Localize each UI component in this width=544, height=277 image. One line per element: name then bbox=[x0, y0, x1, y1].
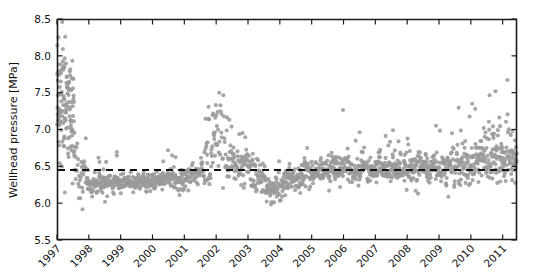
x-tick-label: 2008 bbox=[386, 242, 413, 269]
tick-labels-layer: 5.56.06.57.07.58.08.51997199819992000200… bbox=[34, 13, 508, 270]
x-tick-label: 2005 bbox=[290, 242, 317, 269]
y-tick-label: 8.0 bbox=[34, 50, 51, 62]
data-points-layer bbox=[55, 20, 519, 211]
x-tick-label: 2002 bbox=[195, 242, 222, 269]
scatter-plot-svg: 5.56.06.57.07.58.08.51997199819992000200… bbox=[0, 0, 544, 277]
x-tick-label: 1999 bbox=[99, 242, 126, 269]
y-tick-label: 5.5 bbox=[34, 234, 51, 246]
x-tick-label: 1997 bbox=[36, 242, 63, 269]
x-tick-label: 2000 bbox=[131, 242, 158, 269]
x-tick-label: 2010 bbox=[449, 242, 476, 269]
x-tick-label: 2006 bbox=[322, 242, 350, 270]
y-tick-label: 8.5 bbox=[34, 13, 51, 25]
x-tick-label: 2007 bbox=[354, 242, 381, 269]
y-axis-label: Wellhead pressure [MPa] bbox=[7, 62, 20, 198]
y-tick-label: 6.0 bbox=[34, 197, 51, 209]
x-tick-label: 2004 bbox=[258, 242, 286, 270]
x-tick-label: 2009 bbox=[418, 242, 445, 269]
y-tick-label: 6.5 bbox=[34, 160, 51, 172]
x-tick-label: 2003 bbox=[227, 242, 254, 269]
y-tick-label: 7.5 bbox=[34, 86, 51, 98]
x-tick-label: 2011 bbox=[481, 242, 508, 269]
x-tick-label: 1998 bbox=[67, 242, 94, 269]
wellhead-pressure-figure: 5.56.06.57.07.58.08.51997199819992000200… bbox=[0, 0, 544, 277]
axes-layer bbox=[57, 19, 517, 240]
x-tick-label: 2001 bbox=[163, 242, 190, 269]
y-tick-label: 7.0 bbox=[34, 123, 51, 135]
